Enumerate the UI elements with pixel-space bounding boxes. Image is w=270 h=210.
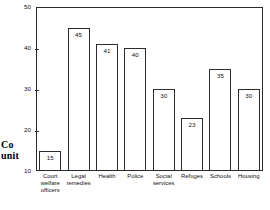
bar: 30 [153,89,175,171]
y-tick-label-10: 10 [15,168,31,174]
bar-value-label: 15 [40,155,60,161]
bar-value-label: 30 [154,93,174,99]
bar-chart: Co unit 1020304050 1545414030233530 Cour… [0,0,270,210]
x-axis-label: Housing [233,173,265,180]
bar-value-label: 41 [97,48,117,54]
y-tick-label-40: 40 [15,45,31,51]
bar: 30 [238,89,260,171]
bar-value-label: 35 [210,73,230,79]
bar: 45 [68,28,90,172]
y-tick-label-30: 30 [15,86,31,92]
x-axis-label-line: remedies [62,180,94,187]
bar-value-label: 30 [239,93,259,99]
x-axis-label-line: Housing [233,173,265,180]
x-axis-label-line: services [148,180,180,187]
bar: 23 [181,118,203,171]
bar-value-label: 23 [182,122,202,128]
bars-container: 1545414030233530 [36,7,263,171]
bar: 35 [209,69,231,172]
x-axis-labels: CourtwelfareofficersLegalremediesHealthP… [36,173,263,207]
y-tick-label-50: 50 [15,4,31,10]
bar-value-label: 40 [125,52,145,58]
x-axis-label-line: officers [34,187,66,194]
y-axis-title: Co unit [1,139,34,161]
y-axis-title-line-2: unit [1,150,34,161]
y-tick-label-20: 20 [15,127,31,133]
bar: 40 [124,48,146,171]
bar: 15 [39,151,61,172]
y-axis-title-line-1: Co [1,139,34,150]
bar: 41 [96,44,118,171]
bar-value-label: 45 [69,32,89,38]
